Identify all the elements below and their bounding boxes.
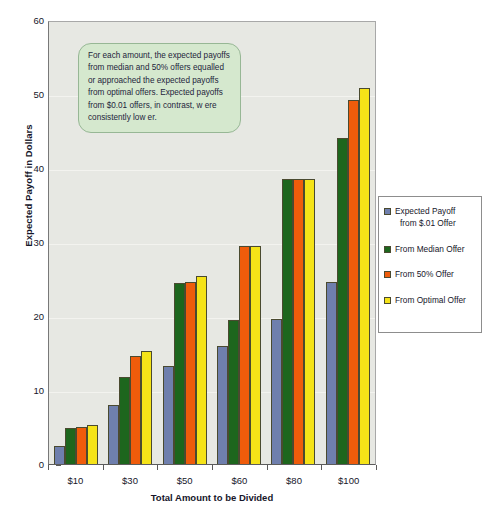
bar[interactable] — [174, 283, 185, 464]
legend-label: From Optimal Offer — [395, 295, 466, 307]
bar[interactable] — [326, 282, 337, 464]
bar[interactable] — [250, 246, 261, 464]
bar-group — [271, 22, 315, 464]
legend-swatch-icon — [384, 208, 391, 215]
y-tick-label: 10 — [18, 386, 44, 396]
bar[interactable] — [271, 319, 282, 464]
bar[interactable] — [304, 179, 315, 464]
legend-swatch-icon — [384, 297, 391, 304]
x-tick-mark — [212, 465, 213, 470]
bar[interactable] — [282, 179, 293, 464]
x-tick-label: $50 — [155, 475, 215, 486]
y-tick-label: 50 — [18, 90, 44, 100]
bar[interactable] — [130, 356, 141, 464]
legend-label: From Median Offer — [395, 244, 464, 256]
bar[interactable] — [76, 427, 87, 464]
legend-label-line2: from $.01 Offer — [395, 218, 456, 230]
bar[interactable] — [228, 320, 239, 464]
x-tick-mark — [267, 465, 268, 470]
bar[interactable] — [293, 179, 304, 464]
legend-item[interactable]: Expected Payofffrom $.01 Offer — [384, 206, 481, 230]
x-tick-label: $100 — [319, 475, 379, 486]
y-axis-tick-labels: 0102030405060 — [14, 0, 44, 513]
bar-chart: Expected Payoff in Dollars 0102030405060… — [0, 0, 490, 513]
legend-item[interactable]: From Median Offer — [384, 244, 481, 256]
x-tick-label: $60 — [209, 475, 269, 486]
bar[interactable] — [185, 282, 196, 464]
bar[interactable] — [348, 100, 359, 464]
x-tick-label: $30 — [100, 475, 160, 486]
x-tick-label: $10 — [45, 475, 105, 486]
x-tick-mark — [157, 465, 158, 470]
legend-item[interactable]: From Optimal Offer — [384, 295, 481, 307]
bar[interactable] — [163, 366, 174, 464]
x-tick-mark — [103, 465, 104, 470]
x-axis-title: Total Amount to be Divided — [48, 492, 376, 503]
bar[interactable] — [108, 405, 119, 464]
bar[interactable] — [141, 351, 152, 464]
bar[interactable] — [87, 425, 98, 464]
bar[interactable] — [239, 246, 250, 464]
annotation-callout: For each amount, the expected payoffs fr… — [78, 43, 241, 133]
y-tick-label: 40 — [18, 164, 44, 174]
y-tick-label: 60 — [18, 16, 44, 26]
x-tick-mark — [48, 465, 49, 470]
y-tick-label: 0 — [18, 460, 44, 470]
legend-item[interactable]: From 50% Offer — [384, 269, 481, 281]
bar[interactable] — [196, 276, 207, 464]
legend-swatch-icon — [384, 271, 391, 278]
bar[interactable] — [119, 377, 130, 464]
x-tick-label: $80 — [264, 475, 324, 486]
y-tick-label: 30 — [18, 238, 44, 248]
legend-label: Expected Payofffrom $.01 Offer — [395, 206, 456, 230]
x-tick-mark — [321, 465, 322, 470]
bar[interactable] — [337, 138, 348, 464]
legend-swatch-icon — [384, 246, 391, 253]
x-tick-mark — [376, 465, 377, 470]
y-tick-label: 20 — [18, 312, 44, 322]
bar[interactable] — [54, 446, 65, 465]
bar[interactable] — [359, 88, 370, 464]
legend: Expected Payofffrom $.01 OfferFrom Media… — [378, 196, 482, 333]
bar[interactable] — [65, 428, 76, 464]
bar[interactable] — [217, 346, 228, 464]
bar-group — [326, 22, 370, 464]
y-tick-mark — [56, 465, 61, 466]
legend-label: From 50% Offer — [395, 269, 454, 281]
